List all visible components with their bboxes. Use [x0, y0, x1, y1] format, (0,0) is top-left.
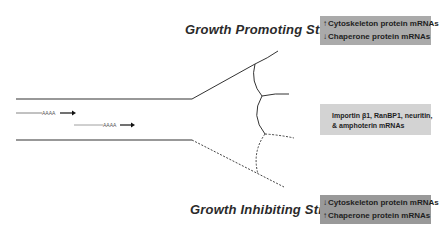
down-arrow-icon: ↓: [323, 198, 327, 207]
up-arrow-icon: ↑: [323, 211, 327, 220]
growth-cone-upper-filopodium: [255, 51, 278, 64]
growth-cone-lamella-3: [256, 134, 265, 174]
localized-line-2: & amphoterin mRNAs: [332, 121, 419, 131]
growth-cone-lower-edge: [192, 140, 284, 187]
mrna-1-polya-label: AAAA: [42, 110, 56, 116]
growth-cone-lower-filopodium: [265, 134, 294, 138]
localized-mrnas-box: Importin β1, RanBP1, neuritin, & amphote…: [320, 104, 431, 135]
growth-cone-lamella-1: [254, 64, 262, 96]
mrna-2-polya-label: AAAA: [103, 122, 117, 128]
growth-cone-middle-filopodium: [262, 94, 289, 96]
inhibiting-effects-box: ↓Cytoskeleton protein mRNAs ↑Chaperone p…: [320, 195, 431, 224]
localized-line-1: Importin β1, RanBP1, neuritin,: [332, 111, 419, 121]
growth-cone-lamella-2: [257, 96, 265, 134]
mrna-1-arrowhead-icon: [72, 111, 76, 116]
promoting-line-2: ↓Chaperone protein mRNAs: [323, 31, 428, 44]
promoting-effects-box: ↑Cytoskeleton protein mRNAs ↓Chaperone p…: [320, 16, 431, 45]
down-arrow-icon: ↓: [323, 32, 327, 41]
growth-cone-upper-edge: [192, 64, 255, 99]
inhibiting-line-1: ↓Cytoskeleton protein mRNAs: [323, 197, 428, 210]
inhibiting-line-2: ↑Chaperone protein mRNAs: [323, 210, 428, 223]
up-arrow-icon: ↑: [323, 19, 327, 28]
mrna-2-arrowhead-icon: [131, 123, 135, 128]
promoting-line-1: ↑Cytoskeleton protein mRNAs: [323, 18, 428, 31]
